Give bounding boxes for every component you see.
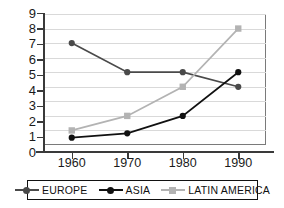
legend-label: LATIN AMERICA [188,184,270,196]
y-axis-tick-label: 9 [14,7,36,20]
y-axis-tick-label: 5 [14,68,36,81]
data-point-marker [69,127,75,133]
series-line [72,72,239,138]
data-point-marker [69,135,75,141]
data-point-marker [124,130,130,136]
y-axis-tick [37,44,44,45]
chart-legend: EUROPEASIALATIN AMERICA [27,180,258,200]
y-axis-tick-label: 4 [14,84,36,97]
legend-marker-icon [15,185,39,195]
y-axis-tick [37,28,44,29]
y-axis-tick [37,106,44,107]
data-point-marker [235,25,241,31]
data-point-marker [180,69,186,75]
y-axis-tick-label: 8 [14,22,36,35]
series-layer [44,14,266,145]
y-axis-tick [37,75,44,76]
data-point-marker [124,113,130,119]
y-axis-tick [37,152,44,153]
legend-item-europe[interactable]: EUROPE [15,184,88,196]
data-point-marker [180,84,186,90]
legend-label: ASIA [126,184,151,196]
y-axis-tick [37,13,44,14]
data-point-marker [180,113,186,119]
legend-marker-icon [99,185,123,195]
legend-marker-icon [161,185,185,195]
x-axis-tick-label: 1980 [159,157,207,170]
data-point-marker [235,84,241,90]
data-point-marker [235,69,241,75]
y-axis-tick [37,90,44,91]
x-axis-tick-label: 1990 [214,157,262,170]
y-axis-line [43,13,45,152]
legend-label: EUROPE [42,184,88,196]
y-axis-tick [37,137,44,138]
legend-item-latin-america[interactable]: LATIN AMERICA [161,184,270,196]
legend-item-asia[interactable]: ASIA [99,184,151,196]
data-point-marker [69,40,75,46]
x-axis-tick-label: 1960 [48,157,96,170]
data-point-marker [124,69,130,75]
y-axis-tick [37,59,44,60]
series-latin-america [69,25,242,133]
y-axis-tick-label: 6 [14,53,36,66]
y-axis-tick-label: 1 [14,130,36,143]
x-axis-tick-label: 1970 [103,157,151,170]
line-chart: 0123456789 1960197019801990 EUROPEASIALA… [0,0,284,208]
y-axis-tick-label: 3 [14,99,36,112]
y-axis-tick-label: 0 [14,146,36,159]
y-axis-tick-label: 2 [14,115,36,128]
series-asia [69,69,242,141]
plot-area [44,14,266,145]
y-axis-tick-label: 7 [14,37,36,50]
series-europe [69,40,242,90]
series-line [72,43,239,87]
y-axis-tick [37,121,44,122]
